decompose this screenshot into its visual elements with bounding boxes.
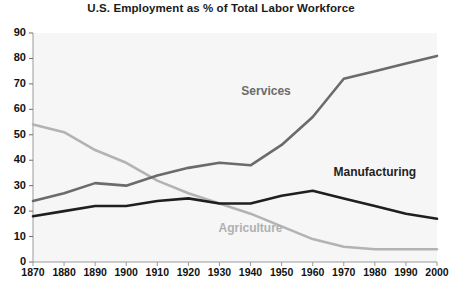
x-tick-label: 1930 — [202, 266, 236, 278]
x-tick-label: 1900 — [109, 266, 143, 278]
x-tick-label: 1880 — [47, 266, 81, 278]
x-tick-label: 1910 — [140, 266, 174, 278]
y-tick-label: 20 — [0, 204, 26, 216]
x-tick-label: 1890 — [78, 266, 112, 278]
x-tick-label: 1970 — [327, 266, 361, 278]
y-tick-label: 90 — [0, 26, 26, 38]
y-tick-label: 60 — [0, 102, 26, 114]
series-label-agriculture: Agriculture — [219, 221, 283, 235]
y-tick-label: 70 — [0, 77, 26, 89]
y-tick-label: 40 — [0, 153, 26, 165]
y-tick-label: 30 — [0, 179, 26, 191]
x-tick-label: 1920 — [171, 266, 205, 278]
x-tick-label: 1980 — [358, 266, 392, 278]
series-label-manufacturing: Manufacturing — [334, 165, 417, 179]
x-tick-label: 2000 — [420, 266, 453, 278]
x-tick-label: 1940 — [234, 266, 268, 278]
x-tick-label: 1990 — [389, 266, 423, 278]
y-tick-label: 50 — [0, 128, 26, 140]
x-tick-label: 1950 — [265, 266, 299, 278]
y-tick-label: 80 — [0, 51, 26, 63]
x-tick-label: 1960 — [296, 266, 330, 278]
y-tick-label: 10 — [0, 230, 26, 242]
series-label-services: Services — [241, 84, 290, 98]
x-tick-label: 1870 — [16, 266, 50, 278]
